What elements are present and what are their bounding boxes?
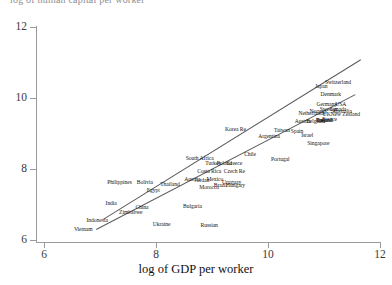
point-label: Philippines: [107, 179, 132, 185]
x-axis-title: log of GDP per worker: [0, 262, 392, 277]
point-label: Denmark: [320, 91, 340, 97]
point-label: Bulgaria: [183, 203, 202, 209]
point-label: Thailand: [160, 181, 179, 187]
point-label: Germany: [317, 101, 337, 107]
point-label: Switzerland: [325, 79, 351, 85]
x-axis-line: [36, 242, 381, 243]
x-tick-label: 12: [365, 248, 392, 260]
point-label: Korea Re: [225, 126, 246, 132]
point-label: Indonesia: [87, 217, 108, 223]
y-tick-label: 12: [0, 20, 27, 32]
point-label: China: [135, 204, 148, 210]
x-tick-label: 6: [29, 248, 59, 260]
point-label: Vietnam: [74, 226, 93, 232]
y-tick-label: 6: [0, 233, 27, 245]
y-tick-mark: [30, 27, 36, 28]
y-tick-mark: [30, 169, 36, 170]
scatter-plot: log of human capital per worker 681012 6…: [0, 0, 392, 285]
point-label: Israel: [301, 132, 313, 138]
y-tick-mark: [30, 240, 36, 241]
x-tick-label: 8: [141, 248, 171, 260]
point-label: Portugal: [271, 156, 290, 162]
y-axis-line: [36, 26, 37, 242]
chart-title-clipped: log of human capital per worker: [10, 0, 145, 5]
y-tick-label: 10: [0, 91, 27, 103]
point-label: Greece: [227, 160, 243, 166]
y-tick-label: 8: [0, 162, 27, 174]
point-label: Egypt: [147, 187, 160, 193]
point-label: Hungary: [226, 182, 245, 188]
point-label: Chile: [244, 151, 256, 157]
point-label: New Zealand: [331, 111, 360, 117]
point-label: India: [106, 200, 117, 206]
point-label: Taiwan: [274, 127, 290, 133]
y-tick-mark: [30, 98, 36, 99]
point-label: Costa Rica: [197, 168, 221, 174]
point-label: Singapore: [307, 140, 329, 146]
point-label: Ukraine: [153, 221, 171, 227]
point-label: Argentina: [258, 133, 280, 139]
point-label: Bolivia: [137, 179, 153, 185]
point-label: Czech Re: [224, 168, 245, 174]
x-tick-label: 10: [253, 248, 283, 260]
point-label: Russian: [201, 222, 218, 228]
